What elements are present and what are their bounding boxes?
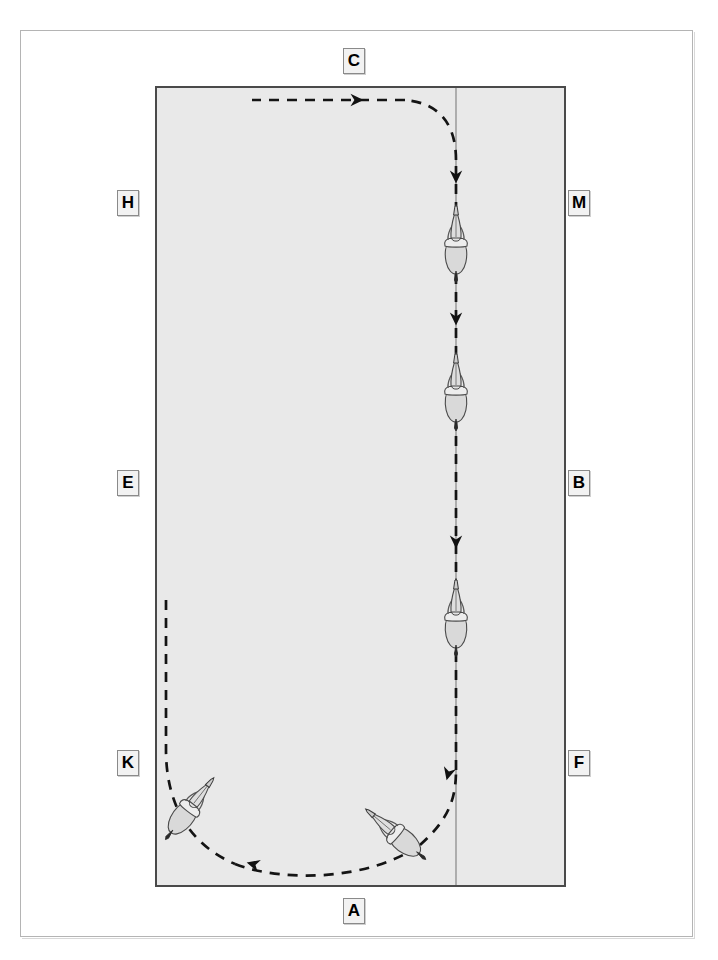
- dressage-arena: [155, 86, 566, 887]
- arena-marker-h[interactable]: H: [117, 190, 139, 216]
- arena-marker-a-label: A: [348, 902, 360, 919]
- arena-marker-e[interactable]: E: [117, 470, 139, 496]
- arena-marker-e-label: E: [122, 474, 133, 491]
- arena-marker-h-label: H: [122, 194, 134, 211]
- diagram-page: C A H E K M B F: [0, 0, 718, 960]
- arena-marker-f[interactable]: F: [568, 750, 590, 776]
- arena-marker-c-label: C: [348, 52, 360, 69]
- arena-marker-k-label: K: [122, 754, 134, 771]
- arena-marker-f-label: F: [574, 754, 584, 771]
- arena-marker-b[interactable]: B: [568, 470, 590, 496]
- arena-marker-b-label: B: [573, 474, 585, 491]
- arena-marker-a[interactable]: A: [343, 898, 365, 924]
- arena-marker-m-label: M: [572, 194, 586, 211]
- arena-marker-m[interactable]: M: [568, 190, 590, 216]
- arena-marker-c[interactable]: C: [343, 48, 365, 74]
- arena-marker-k[interactable]: K: [117, 750, 139, 776]
